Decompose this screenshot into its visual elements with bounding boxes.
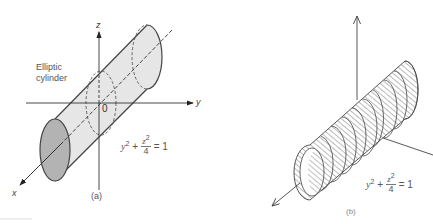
label-line-2: cylinder [36,73,67,84]
x-axis-label: x [12,188,17,198]
equation-a: y2 + z2 4 = 1 [121,137,168,156]
x-axis-b [272,183,300,206]
caption-b: (b) [346,207,356,216]
eq-plus: + [132,141,138,152]
eq-b-fraction: z2 4 [386,175,395,194]
z-axis-label: z [96,20,101,30]
y-axis-b [383,138,433,155]
y-axis-label: y [196,97,201,107]
front-opening-hatch [308,150,324,194]
equation-b: y2 + z2 4 = 1 [366,175,413,194]
eq-b-term1: y2 [366,179,374,190]
eq-b-plus: + [377,179,383,190]
eq-equals: = 1 [154,141,168,152]
origin-label: 0 [102,103,108,114]
eq-fraction: z2 4 [141,137,150,156]
elliptic-cylinder-label: Elliptic cylinder [36,62,67,84]
figure-a [0,25,193,219]
eq-term1: y2 [121,141,129,152]
label-line-1: Elliptic [36,62,67,73]
x-axis-hidden [62,30,172,143]
eq-b-equals: = 1 [399,179,413,190]
caption-a: (a) [91,191,102,201]
diagram-elliptic-cylinder: z y x 0 Elliptic cylinder y2 + z2 4 = 1 … [0,0,433,224]
